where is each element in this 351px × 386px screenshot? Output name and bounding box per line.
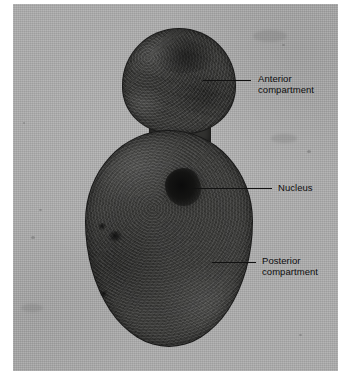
posterior-compartment-region [85,130,253,347]
nucleus-region [165,168,201,206]
micrograph-figure: Anterior compartment Nucleus Posterior c… [0,0,351,386]
anterior-compartment-region [122,28,236,134]
label-line: Nucleus [278,183,313,194]
cytoplasmic-inclusion [98,223,107,230]
label-line: Posterior [262,256,318,267]
label-posterior-compartment: Posterior compartment [262,256,318,277]
label-line: Anterior [258,74,314,85]
cytoplasmic-inclusion [100,291,108,297]
anterior-dense-region [152,31,217,73]
anterior-leader-line [203,80,251,81]
posterior-leader-line [212,262,256,263]
label-nucleus: Nucleus [278,183,313,194]
nucleus-leader-line [190,188,272,189]
label-anterior-compartment: Anterior compartment [258,74,314,95]
label-line: compartment [258,85,314,96]
cytoplasmic-inclusion [108,231,124,242]
label-line: compartment [262,267,318,278]
